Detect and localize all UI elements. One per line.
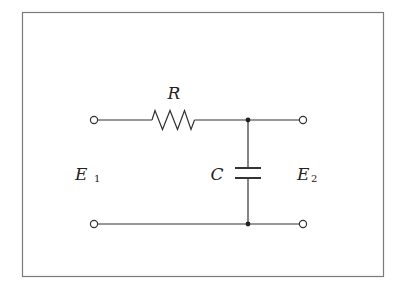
output-voltage-symbol: E xyxy=(296,164,310,184)
input-terminal-bottom-icon xyxy=(90,220,97,227)
diagram-frame xyxy=(23,13,384,277)
top-junction-dot xyxy=(246,118,251,123)
resistor-label: R xyxy=(167,83,181,103)
output-terminal-bottom-icon xyxy=(299,220,306,227)
input-terminal-top-icon xyxy=(90,116,97,123)
bottom-junction-dot xyxy=(246,222,251,227)
rc-circuit-diagram: R C E 1 E 2 xyxy=(0,0,396,294)
output-terminal-top-icon xyxy=(299,116,306,123)
output-voltage-subscript: 2 xyxy=(311,173,317,184)
input-voltage-subscript: 1 xyxy=(94,173,100,184)
capacitor-label: C xyxy=(210,164,223,184)
input-voltage-symbol: E xyxy=(74,164,88,184)
